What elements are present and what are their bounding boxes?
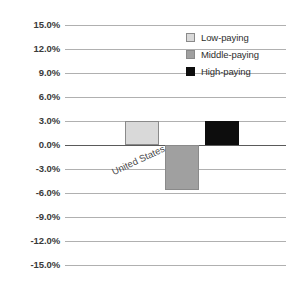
category-label: United States (110, 143, 166, 177)
legend: Low-paying Middle-paying High-paying (186, 29, 259, 80)
legend-label-middle-paying: Middle-paying (201, 49, 259, 60)
legend-item-low-paying[interactable]: Low-paying (186, 29, 259, 46)
bar-low-paying[interactable] (125, 121, 159, 145)
legend-label-high-paying: High-paying (201, 66, 251, 77)
legend-item-high-paying[interactable]: High-paying (186, 63, 259, 80)
bar-high-paying[interactable] (205, 121, 239, 145)
bar-middle-paying[interactable] (165, 145, 199, 190)
legend-item-middle-paying[interactable]: Middle-paying (186, 46, 259, 63)
legend-swatch-icon-high-paying (186, 67, 195, 76)
legend-swatch-icon-middle-paying (186, 50, 195, 59)
legend-swatch-icon-low-paying (186, 33, 195, 42)
legend-label-low-paying: Low-paying (201, 32, 249, 43)
bar-chart: 15.0%12.0%9.0%6.0%3.0%0.0%-3.0%-6.0%-9.0… (0, 0, 301, 287)
